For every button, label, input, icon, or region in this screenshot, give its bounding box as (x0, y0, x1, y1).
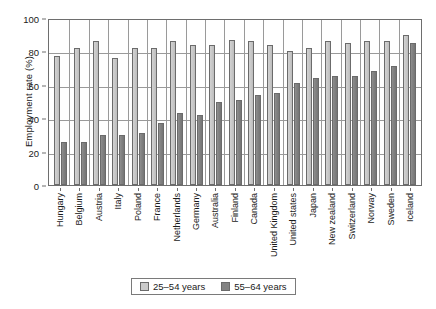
x-tick-label: Iceland (405, 193, 415, 222)
bar-group (90, 20, 109, 185)
legend-swatch (140, 282, 149, 291)
bar (248, 41, 254, 185)
bar (81, 142, 87, 185)
x-tick-mark (157, 188, 158, 191)
x-label-cell: Hungary (50, 188, 69, 270)
x-tick-mark (118, 188, 119, 191)
x-label-cell: Iceland (400, 188, 419, 270)
x-tick-label: Switzerland (347, 193, 357, 240)
bar (229, 40, 235, 185)
bar (391, 66, 397, 185)
x-label-cell: Japan (303, 188, 322, 270)
x-label-cell: Austria (89, 188, 108, 270)
bar (403, 35, 409, 185)
bar (267, 45, 273, 185)
chart-legend: 25–54 years55–64 years (131, 278, 296, 295)
x-axis-labels: HungaryBelgiumAustriaItalyPolandFranceNe… (48, 188, 422, 270)
bar (54, 56, 60, 185)
y-axis-ticks: 020406080100 (0, 19, 46, 186)
bar-group (51, 20, 70, 185)
bar (364, 41, 370, 185)
x-tick-label: Japan (308, 193, 318, 218)
x-tick-label: United Kingdom (269, 193, 279, 257)
x-tick-mark (60, 188, 61, 191)
x-tick-mark (79, 188, 80, 191)
bar (197, 115, 203, 185)
bar (274, 93, 280, 185)
x-label-cell: Australia (206, 188, 225, 270)
y-tick-label: 100 (23, 14, 39, 25)
bar-group (129, 20, 148, 185)
bar (325, 41, 331, 185)
bar (332, 76, 338, 185)
x-tick-label: United states (288, 193, 298, 246)
x-tick-label: France (152, 193, 162, 221)
bar (100, 135, 106, 185)
y-tick-label: 20 (28, 147, 39, 158)
x-tick-mark (332, 188, 333, 191)
y-tick-label: 60 (28, 80, 39, 91)
legend-item: 55–64 years (221, 281, 286, 292)
bar (384, 41, 390, 185)
bar (371, 71, 377, 185)
bar (151, 48, 157, 185)
bar-group (380, 20, 399, 185)
bar-group (109, 20, 128, 185)
x-tick-label: Austria (94, 193, 104, 221)
x-label-cell: Switzerland (342, 188, 361, 270)
y-tick-label: 80 (28, 47, 39, 58)
chart-figure: Employment rate (%) 020406080100 Hungary… (0, 0, 436, 309)
x-tick-label: Canada (249, 193, 259, 225)
bar-group (303, 20, 322, 185)
y-tick-mark (42, 19, 46, 20)
y-tick-mark (42, 85, 46, 86)
x-tick-label: Italy (113, 193, 123, 210)
x-label-cell: Sweden (381, 188, 400, 270)
bar (345, 43, 351, 185)
bar (216, 102, 222, 186)
bar-group (361, 20, 380, 185)
y-tick-label: 0 (34, 181, 39, 192)
bar-group (206, 20, 225, 185)
x-tick-label: Belgium (74, 193, 84, 226)
x-label-cell: France (147, 188, 166, 270)
x-tick-label: Sweden (386, 193, 396, 226)
bar-group (284, 20, 303, 185)
x-tick-mark (177, 188, 178, 191)
x-tick-label: Norway (366, 193, 376, 224)
bar (177, 113, 183, 185)
y-tick-mark (42, 119, 46, 120)
legend-swatch (221, 282, 230, 291)
bar-group (342, 20, 361, 185)
plot-area (48, 19, 422, 186)
legend-label: 25–54 years (153, 281, 205, 292)
x-tick-label: Netherlands (172, 193, 182, 242)
x-tick-mark (410, 188, 411, 191)
bar (306, 48, 312, 185)
x-label-cell: New zealand (323, 188, 342, 270)
bar-group (148, 20, 167, 185)
x-label-cell: United states (284, 188, 303, 270)
bar (158, 123, 164, 185)
x-tick-label: Hungary (55, 193, 65, 227)
y-tick-mark (42, 152, 46, 153)
bar (410, 43, 416, 185)
x-label-cell: Norway (362, 188, 381, 270)
x-tick-mark (235, 188, 236, 191)
bar (112, 58, 118, 185)
x-tick-label: New zealand (327, 193, 337, 245)
x-tick-mark (391, 188, 392, 191)
bar (287, 51, 293, 185)
x-tick-mark (313, 188, 314, 191)
x-tick-label: Finland (230, 193, 240, 223)
x-tick-mark (215, 188, 216, 191)
y-tick-mark (42, 186, 46, 187)
x-label-cell: Germany (186, 188, 205, 270)
bar-group (400, 20, 419, 185)
bar (119, 135, 125, 185)
x-tick-label: Poland (133, 193, 143, 221)
bar-group (264, 20, 283, 185)
x-tick-mark (352, 188, 353, 191)
x-tick-label: Germany (191, 193, 201, 230)
bar (209, 45, 215, 185)
